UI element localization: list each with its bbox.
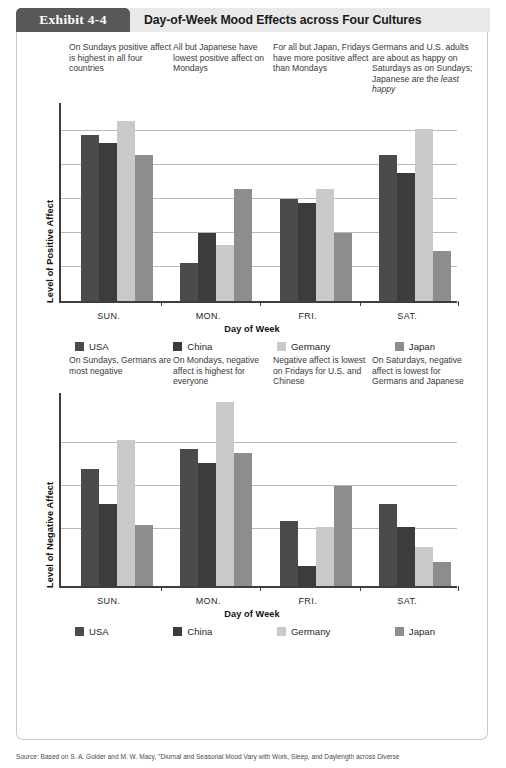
y-axis-label: Level of Positive Affect	[45, 200, 55, 303]
legend-item: Japan	[395, 626, 435, 637]
legend-label: Japan	[409, 626, 435, 637]
bar-germany-fri	[316, 527, 334, 586]
legend-swatch-icon	[395, 627, 404, 636]
plot-area	[59, 393, 457, 588]
bar-japan-fri	[334, 233, 352, 301]
axis-tick	[161, 586, 162, 591]
axis-tick	[161, 301, 162, 306]
bar-china-fri	[298, 203, 316, 301]
bar-germany-sat	[415, 547, 433, 586]
legend-label: China	[187, 626, 212, 637]
bar-china-mon	[198, 463, 216, 586]
bar-usa-fri	[280, 521, 298, 585]
bar-germany-mon	[216, 402, 234, 585]
bar-china-sun	[99, 504, 117, 586]
x-axis-label: Day of Week	[17, 609, 487, 619]
bar-germany-sun	[117, 440, 135, 586]
bar-china-fri	[298, 566, 316, 586]
x-tick-label: FRI.	[258, 311, 358, 321]
annotation-note: On Sundays, Germans are most negative	[69, 355, 173, 387]
bar-japan-mon	[234, 453, 252, 586]
legend-item: China	[173, 626, 212, 637]
exhibit-container: Exhibit 4-4 Day-of-Week Mood Effects acr…	[16, 8, 490, 742]
annotation-note: On Sundays positive affect is highest in…	[69, 42, 173, 95]
exhibit-header: Exhibit 4-4 Day-of-Week Mood Effects acr…	[16, 8, 490, 32]
source-caption: Source: Based on S. A. Golder and M. W. …	[16, 752, 496, 761]
legend-label: USA	[89, 626, 109, 637]
exhibit-titlebar: Day-of-Week Mood Effects across Four Cul…	[130, 8, 490, 32]
bar-japan-fri	[334, 486, 352, 585]
bar-germany-sun	[117, 121, 135, 301]
annotations-negative: On Sundays, Germans are most negative On…	[17, 347, 487, 387]
legend-swatch-icon	[277, 627, 286, 636]
exhibit-title: Day-of-Week Mood Effects across Four Cul…	[130, 13, 421, 27]
bar-japan-sat	[433, 562, 451, 585]
exhibit-body: On Sundays positive affect is highest in…	[16, 32, 488, 740]
legend-swatch-icon	[75, 627, 84, 636]
bar-japan-sat	[433, 251, 451, 301]
bar-germany-fri	[316, 189, 334, 301]
bar-germany-mon	[216, 245, 234, 301]
x-tick-label: SAT.	[358, 596, 458, 606]
annotation-note: On Saturdays, negative affect is lowest …	[372, 355, 476, 387]
x-tick-label: SUN.	[59, 596, 159, 606]
x-tick-label: SUN.	[59, 311, 159, 321]
annotation-note: On Mondays, negative affect is highest f…	[173, 355, 273, 387]
bar-usa-sun	[81, 135, 99, 301]
legend-item: Germany	[277, 626, 330, 637]
bar-usa-mon	[180, 263, 198, 301]
x-axis-label: Day of Week	[17, 324, 487, 334]
x-tick-label: MON.	[159, 311, 259, 321]
bar-japan-sun	[135, 525, 153, 585]
axis-tick	[458, 586, 459, 591]
bar-germany-sat	[415, 129, 433, 301]
axis-tick	[260, 301, 261, 306]
axis-tick	[360, 586, 361, 591]
annotations-positive: On Sundays positive affect is highest in…	[17, 32, 487, 95]
annotation-note: All but Japanese have lowest positive af…	[173, 42, 273, 95]
axis-tick	[260, 586, 261, 591]
y-axis-label: Level of Negative Affect	[45, 482, 55, 588]
exhibit-number-label: Exhibit 4-4	[39, 12, 106, 28]
bar-usa-sat	[379, 504, 397, 586]
bar-china-sat	[397, 527, 415, 586]
plot-area	[59, 103, 457, 303]
x-tick-label: MON.	[159, 596, 259, 606]
legend-item: USA	[75, 626, 109, 637]
chart-legend: USAChinaGermanyJapan	[75, 626, 435, 637]
bar-china-mon	[198, 233, 216, 301]
bar-japan-mon	[234, 189, 252, 301]
x-tick-label: SAT.	[358, 311, 458, 321]
x-tick-label: FRI.	[258, 596, 358, 606]
bar-usa-sat	[379, 155, 397, 301]
legend-swatch-icon	[173, 627, 182, 636]
exhibit-number-tab: Exhibit 4-4	[16, 8, 130, 32]
chart-negative-affect: Level of Negative Affect SUN.MON.FRI.SAT…	[17, 387, 487, 642]
legend-label: Germany	[291, 626, 330, 637]
bar-japan-sun	[135, 155, 153, 301]
annotation-note: Negative affect is lowest on Fridays for…	[273, 355, 372, 387]
chart-positive-affect: Level of Positive Affect SUN.MON.FRI.SAT…	[17, 95, 487, 347]
axis-tick	[360, 301, 361, 306]
axis-tick	[458, 301, 459, 306]
bar-usa-mon	[180, 449, 198, 586]
annotation-note: For all but Japan, Fridays have more pos…	[273, 42, 372, 95]
bar-usa-sun	[81, 469, 99, 586]
annotation-note: Germans and U.S. adults are about as hap…	[372, 42, 476, 95]
bar-china-sat	[397, 173, 415, 301]
bar-china-sun	[99, 143, 117, 301]
bar-usa-fri	[280, 199, 298, 301]
